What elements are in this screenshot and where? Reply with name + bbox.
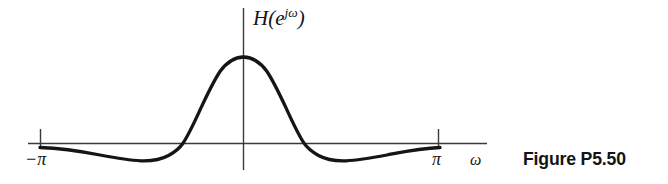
y-axis-label-close: ) <box>298 6 305 30</box>
tick-label-pos-pi: π <box>432 150 441 168</box>
y-axis-label: H(ejω) <box>253 6 305 29</box>
x-axis-label: ω <box>470 152 481 168</box>
tick-label-neg-pi: −π <box>25 150 46 168</box>
figure-caption: Figure P5.50 <box>523 148 626 170</box>
y-axis-label-superscript: jω <box>284 5 297 20</box>
response-curve <box>40 57 440 161</box>
y-axis-label-main: H(e <box>253 6 284 30</box>
figure-container: H(ejω) −π π ω Figure P5.50 <box>0 0 668 184</box>
